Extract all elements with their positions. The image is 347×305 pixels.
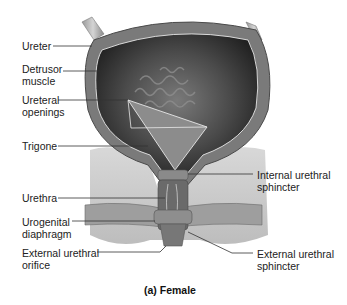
label-ureteral-openings: Ureteral openings: [22, 94, 65, 118]
urethral-orifice-shape: [160, 224, 186, 246]
label-urethra: Urethra: [22, 192, 57, 204]
label-ureter: Ureter: [22, 40, 51, 52]
label-external-urethral-sphincter: External urethral sphincter: [257, 248, 334, 272]
internal-sphincter-shape: [158, 170, 188, 180]
figure-caption: (a) Female: [144, 284, 196, 296]
left-ureter: [82, 17, 104, 40]
label-internal-urethral-sphincter: Internal urethral sphincter: [257, 169, 331, 193]
label-external-urethral-orifice: External urethral orifice: [22, 247, 99, 271]
external-sphincter-shape: [154, 210, 192, 224]
figure: Ureter Detrusor muscle Ureteral openings…: [0, 0, 347, 305]
label-detrusor-muscle: Detrusor muscle: [22, 63, 62, 87]
label-urogenital-diaphragm: Urogenital diaphragm: [22, 216, 72, 240]
label-trigone: Trigone: [22, 140, 57, 152]
